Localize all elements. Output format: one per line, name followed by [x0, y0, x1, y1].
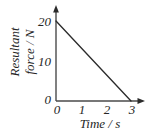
y-axis-title-line-1: Resultant: [8, 4, 23, 100]
x-tick-label-0: 0: [54, 103, 61, 116]
x-axis-arrowhead-icon: [138, 98, 146, 104]
x-tick-label-2: 2: [104, 103, 111, 116]
y-axis-arrowhead-icon: [53, 5, 59, 13]
y-tick-label-10: 10: [38, 55, 51, 68]
data-line-series-0: [56, 21, 131, 101]
y-tick-label-20: 20: [38, 15, 51, 28]
x-tick-label-3: 3: [129, 103, 136, 116]
y-tick-label-0: 0: [45, 93, 52, 106]
x-tick-label-1: 1: [79, 103, 86, 116]
y-axis-title: Resultant force / N: [8, 4, 37, 100]
y-axis-title-line-2: force / N: [23, 4, 38, 100]
resultant-force-time-chart: 20 10 0 0 1 2 3 Time / s Resultant force…: [0, 0, 152, 138]
x-axis-title: Time / s: [80, 117, 120, 132]
